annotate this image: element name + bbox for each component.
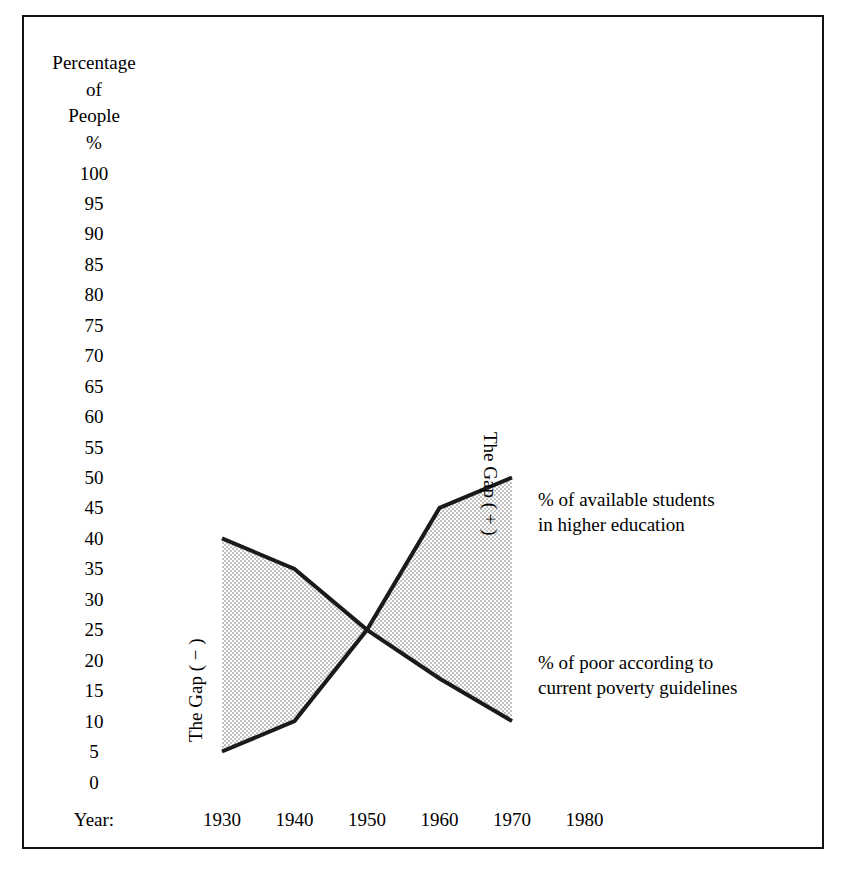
y-axis-tick-label: 25: [38, 620, 150, 639]
y-axis-tick-label: 0: [38, 773, 150, 792]
y-axis-tick-label: 95: [38, 194, 150, 213]
y-axis-tick-label: 30: [38, 590, 150, 609]
y-axis-tick-label: 50: [38, 468, 150, 487]
y-axis-tick-label: 85: [38, 255, 150, 274]
y-axis-title-line-2: of: [38, 77, 150, 104]
y-axis-tick-label: 55: [38, 438, 150, 457]
y-axis-tick-label: 70: [38, 346, 150, 365]
chart-figure: Percentage of People % 10095908580757065…: [0, 0, 847, 869]
gap-positive-label: The Gap ( + ): [481, 432, 500, 536]
series-callout-poverty: % of poor according to current poverty g…: [538, 650, 737, 700]
y-axis-tick-label: 20: [38, 651, 150, 670]
x-axis-caption: Year:: [38, 810, 150, 829]
y-axis-tick-label: 15: [38, 681, 150, 700]
y-axis-tick-label: 45: [38, 498, 150, 517]
gap-negative-label: The Gap ( − ): [186, 638, 205, 742]
y-axis-tick-label: 35: [38, 559, 150, 578]
series-callout-students-line-1: % of available students: [538, 487, 715, 512]
x-axis-tick-label: 1980: [540, 810, 630, 829]
y-axis-tick-label: 40: [38, 529, 150, 548]
series-callout-poverty-line-2: current poverty guidelines: [538, 675, 737, 700]
y-axis-title-line-1: Percentage: [38, 50, 150, 77]
series-callout-poverty-line-1: % of poor according to: [538, 650, 737, 675]
series-callout-students: % of available students in higher educat…: [538, 487, 715, 537]
y-axis-tick-label: 80: [38, 285, 150, 304]
y-axis-title-line-3: People: [38, 103, 150, 130]
y-axis-tick-label: 90: [38, 224, 150, 243]
y-axis-tick-label: 5: [38, 742, 150, 761]
y-axis-tick-label: 60: [38, 407, 150, 426]
y-axis-tick-label: 10: [38, 712, 150, 731]
series-callout-students-line-2: in higher education: [538, 512, 715, 537]
y-axis-tick-label: 65: [38, 377, 150, 396]
y-axis-title: Percentage of People %: [38, 50, 150, 156]
y-axis-title-line-4: %: [38, 130, 150, 157]
y-axis-tick-label: 75: [38, 316, 150, 335]
y-axis-tick-label: 100: [38, 164, 150, 183]
